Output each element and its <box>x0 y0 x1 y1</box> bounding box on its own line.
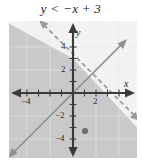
x-tick-label-neg4: −4 <box>21 97 31 106</box>
y-tick-label-2: 2 <box>61 65 66 74</box>
y-axis-label: y <box>76 28 80 38</box>
y-tick-label-4: 4 <box>61 42 66 51</box>
figure-title: y < −x + 3 <box>0 1 142 17</box>
y-tick-label-neg4: −4 <box>55 134 65 143</box>
coordinate-plane-svg <box>9 21 137 158</box>
plotted-point <box>82 128 88 134</box>
x-axis-label: x <box>124 79 128 89</box>
coordinate-plane: −4 2 4 2 −2 −4 x y <box>9 21 137 158</box>
x-tick-label-2: 2 <box>93 97 98 106</box>
graph-figure: y < −x + 3 <box>0 0 142 160</box>
y-tick-label-neg2: −2 <box>55 111 65 120</box>
